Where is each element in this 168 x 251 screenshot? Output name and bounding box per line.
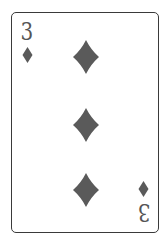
playing-card-three-of-diamonds[interactable]: 3 3	[11, 12, 159, 233]
diamond-icon	[73, 40, 99, 74]
diamond-icon	[22, 47, 33, 63]
diamond-icon	[73, 108, 99, 142]
rank-label: 3	[21, 22, 34, 43]
corner-index-bottom-right: 3	[136, 181, 152, 222]
corner-index-top-left: 3	[19, 22, 35, 63]
rank-label: 3	[138, 201, 151, 222]
diamond-icon	[73, 173, 99, 207]
diamond-icon	[139, 181, 150, 197]
